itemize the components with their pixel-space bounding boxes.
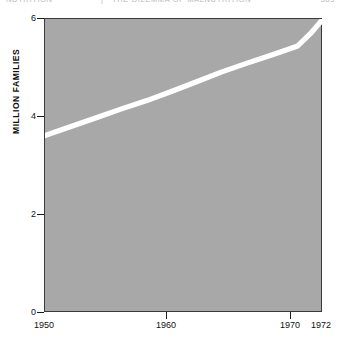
x-tick-label-1972: 1972	[303, 320, 339, 330]
y-tick-6	[37, 18, 44, 19]
y-tick-label-2: 2	[14, 209, 36, 219]
y-axis-title: MILLION FAMILIES	[11, 49, 21, 134]
x-tick-label-1960: 1960	[148, 320, 184, 330]
y-tick-2	[37, 214, 44, 215]
x-tick-1970	[290, 312, 291, 319]
x-tick-1960	[166, 312, 167, 319]
y-tick-label-0: 0	[14, 307, 36, 317]
y-tick-0	[37, 312, 44, 313]
series-line-families	[45, 19, 323, 313]
y-tick-4	[37, 116, 44, 117]
y-tick-label-6: 6	[14, 13, 36, 23]
line-chart-figure: MILLION FAMILIES 0 2 4 6 1950 1960 1970 …	[0, 0, 343, 338]
x-tick-label-1950: 1950	[26, 320, 62, 330]
plot-area	[44, 18, 322, 312]
y-tick-label-4: 4	[14, 111, 36, 121]
